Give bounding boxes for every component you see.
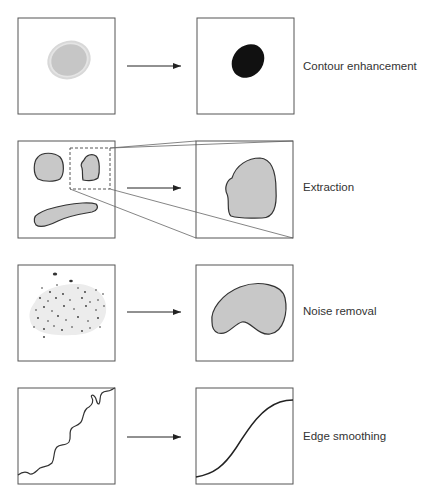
shape-left	[34, 153, 63, 181]
label-noise-removal: Noise removal	[303, 305, 377, 317]
row-contour-enhancement	[18, 18, 294, 114]
label-contour-enhancement: Contour enhancement	[303, 60, 417, 72]
image-processing-diagram	[0, 0, 421, 494]
projection-line-top	[110, 141, 293, 148]
label-extraction: Extraction	[303, 181, 354, 193]
row-edge-smoothing	[18, 388, 293, 484]
projection-line-top-inner	[110, 141, 196, 148]
row-extraction	[18, 141, 293, 238]
input-frame	[18, 388, 115, 484]
extracted-shape	[226, 158, 276, 218]
input-frame	[18, 141, 115, 238]
row-noise-removal	[18, 265, 293, 361]
label-edge-smoothing: Edge smoothing	[303, 430, 386, 442]
